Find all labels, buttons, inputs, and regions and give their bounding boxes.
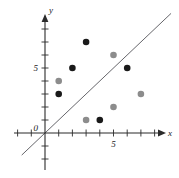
data-point-black-points: [124, 65, 131, 72]
data-point-black-points: [55, 91, 62, 98]
x-tick-label: 5: [111, 139, 116, 149]
y-tick-label: 5: [34, 63, 39, 73]
plot-canvas: x y 0 5 5: [0, 0, 179, 178]
plot-background: [0, 0, 179, 178]
data-point-gray-points: [83, 117, 90, 124]
data-point-black-points: [97, 117, 104, 124]
x-axis-label: x: [167, 128, 172, 138]
data-point-gray-points: [138, 91, 145, 98]
data-point-black-points: [69, 65, 76, 72]
origin-label: 0: [34, 123, 39, 133]
data-point-black-points: [83, 39, 90, 46]
scatter-plot-figure: x y 0 5 5: [0, 0, 179, 178]
data-point-gray-points: [110, 52, 117, 59]
data-point-gray-points: [110, 104, 117, 111]
x-axis-tick-labels: 5: [111, 139, 116, 149]
data-point-gray-points: [55, 78, 62, 85]
y-axis-tick-labels: 5: [34, 63, 39, 73]
y-axis-label: y: [48, 5, 53, 15]
